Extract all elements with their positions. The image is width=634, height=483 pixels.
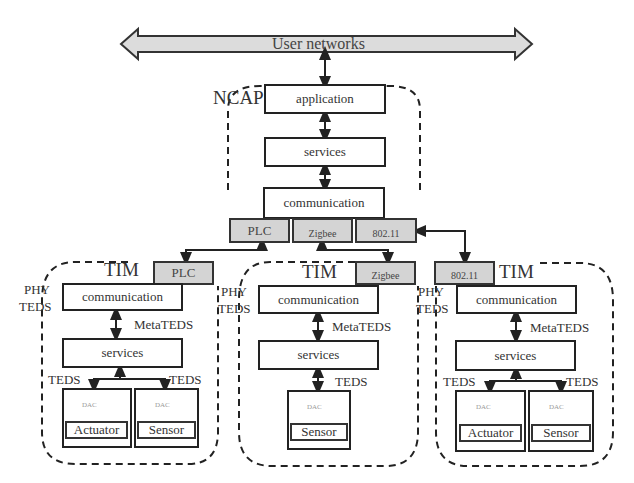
tim-center-metateds: MetaTEDS xyxy=(332,320,391,333)
user-networks-label: User networks xyxy=(272,36,365,52)
tim-center-teds-label: TEDS xyxy=(218,302,251,315)
tim-right-metateds: MetaTEDS xyxy=(530,321,589,334)
tim-right-communication: communication xyxy=(456,285,577,314)
dac-label: DAC xyxy=(82,401,97,409)
tim-right-actuator-device xyxy=(455,390,526,452)
tim-left-metateds: MetaTEDS xyxy=(134,318,193,331)
tim-center-teds-sensor: TEDS xyxy=(335,375,368,388)
tim-center-communication: communication xyxy=(258,285,379,314)
tim-right-sensor-label: Sensor xyxy=(531,424,591,442)
tim-center-sensor-label: Sensor xyxy=(290,423,348,441)
tim-right-sensor-device xyxy=(528,390,594,452)
dac-label: DAC xyxy=(155,401,170,409)
tim-left-actuator-label: Actuator xyxy=(65,421,128,439)
dac-label: DAC xyxy=(549,403,564,411)
dac-label: DAC xyxy=(307,403,322,411)
tim-left-communication: communication xyxy=(62,283,183,311)
dac-label: DAC xyxy=(476,403,491,411)
tim-left-sensor-device xyxy=(134,388,199,448)
tim-center-title: TIM xyxy=(302,262,337,281)
tim-right-teds-actuator: TEDS xyxy=(443,375,476,388)
ncap-port-plc: PLC xyxy=(229,218,290,243)
ncap-title: NCAP xyxy=(213,88,264,107)
ncap-services-layer: services xyxy=(264,137,386,167)
tim-center-phy-label: PHY xyxy=(221,285,247,298)
ncap-port-80211: 802.11 xyxy=(355,218,417,243)
ncap-application-layer: application xyxy=(264,84,386,114)
tim-center-port: Zigbee xyxy=(355,261,416,285)
tim-left-teds-label: TEDS xyxy=(19,300,52,313)
tim-right-phy-label: PHY xyxy=(418,285,444,298)
tim-left-actuator-device xyxy=(62,388,132,448)
ncap-port-zigbee: Zigbee xyxy=(292,218,353,243)
ncap-communication-layer: communication xyxy=(263,187,385,219)
tim-center-sensor-device xyxy=(287,390,351,450)
tim-left-phy-label: PHY xyxy=(24,283,50,296)
tim-right-title: TIM xyxy=(499,262,534,281)
tim-right-port: 802.11 xyxy=(434,261,495,285)
tim-left-teds-actuator: TEDS xyxy=(48,373,81,386)
tim-center-services: services xyxy=(258,340,379,370)
tim-right-teds-label: TEDS xyxy=(416,302,449,315)
tim-right-actuator-label: Actuator xyxy=(459,424,522,442)
tim-left-teds-sensor: TEDS xyxy=(169,373,202,386)
tim-left-services: services xyxy=(62,338,183,368)
tim-left-port: PLC xyxy=(153,261,214,285)
tim-right-teds-sensor: TEDS xyxy=(566,375,599,388)
tim-right-services: services xyxy=(455,340,576,371)
tim-left-title: TIM xyxy=(104,260,139,279)
tim-left-sensor-label: Sensor xyxy=(137,421,196,439)
